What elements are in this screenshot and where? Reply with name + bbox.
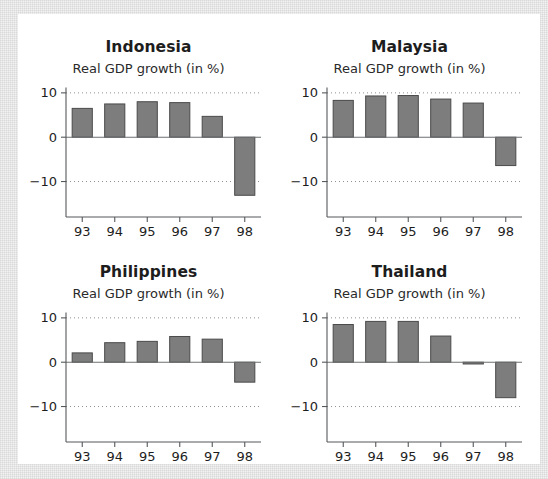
plot-area: 100−10939495969798: [279, 239, 540, 464]
bar-94: [366, 321, 386, 362]
x-tick-label: 95: [139, 449, 156, 464]
x-tick-label: 97: [204, 449, 221, 464]
plot-area: 100−10939495969798: [18, 239, 279, 464]
panel-malaysia: Malaysia Real GDP growth (in %) 100−1093…: [279, 14, 540, 239]
x-tick-label: 93: [74, 449, 91, 464]
bar-96: [431, 99, 451, 137]
y-tick-label: −10: [291, 399, 318, 414]
figure-page: Indonesia Real GDP growth (in %) 100−109…: [0, 0, 548, 479]
y-tick-label: 0: [49, 130, 57, 145]
x-tick-label: 93: [335, 449, 352, 464]
x-tick-label: 94: [106, 449, 123, 464]
bar-95: [398, 96, 418, 138]
bar-95: [137, 102, 157, 137]
x-tick-label: 95: [400, 449, 417, 464]
plot-area: 100−10939495969798: [279, 14, 540, 239]
y-tick-label: 0: [49, 355, 57, 370]
bar-98: [496, 362, 516, 397]
bar-98: [235, 362, 255, 382]
bar-93: [333, 325, 353, 363]
bar-96: [170, 336, 190, 362]
y-tick-label: 10: [40, 85, 57, 100]
y-tick-label: 10: [301, 85, 318, 100]
panel-philippines: Philippines Real GDP growth (in %) 100−1…: [18, 239, 279, 464]
bar-93: [72, 353, 92, 362]
x-tick-label: 94: [367, 449, 384, 464]
bar-93: [333, 100, 353, 137]
x-tick-label: 97: [204, 224, 221, 239]
bar-98: [235, 137, 255, 195]
y-tick-label: −10: [291, 174, 318, 189]
x-tick-label: 98: [236, 449, 253, 464]
bar-96: [431, 336, 451, 362]
x-tick-label: 94: [367, 224, 384, 239]
bar-96: [170, 103, 190, 138]
y-tick-label: 10: [301, 310, 318, 325]
bar-94: [105, 343, 125, 363]
bar-97: [202, 116, 222, 137]
panel-grid: Indonesia Real GDP growth (in %) 100−109…: [18, 14, 540, 464]
bar-97: [202, 339, 222, 362]
x-tick-label: 96: [432, 224, 449, 239]
bar-93: [72, 108, 92, 137]
bar-98: [496, 137, 516, 165]
x-tick-label: 94: [106, 224, 123, 239]
y-tick-label: −10: [30, 174, 57, 189]
bar-97: [463, 103, 483, 137]
panel-indonesia: Indonesia Real GDP growth (in %) 100−109…: [18, 14, 279, 239]
x-tick-label: 98: [497, 224, 514, 239]
bar-95: [398, 321, 418, 362]
x-tick-label: 97: [465, 224, 482, 239]
x-tick-label: 98: [497, 449, 514, 464]
panel-thailand: Thailand Real GDP growth (in %) 100−1093…: [279, 239, 540, 464]
x-tick-label: 96: [432, 449, 449, 464]
x-tick-label: 97: [465, 449, 482, 464]
x-tick-label: 95: [400, 224, 417, 239]
plot-area: 100−10939495969798: [18, 14, 279, 239]
x-tick-label: 93: [74, 224, 91, 239]
bar-94: [105, 104, 125, 137]
y-tick-label: −10: [30, 399, 57, 414]
x-tick-label: 95: [139, 224, 156, 239]
x-tick-label: 96: [171, 224, 188, 239]
bar-95: [137, 341, 157, 362]
figure-canvas: Indonesia Real GDP growth (in %) 100−109…: [18, 14, 540, 464]
x-tick-label: 93: [335, 224, 352, 239]
y-tick-label: 0: [310, 355, 318, 370]
x-tick-label: 98: [236, 224, 253, 239]
y-tick-label: 10: [40, 310, 57, 325]
y-tick-label: 0: [310, 130, 318, 145]
x-tick-label: 96: [171, 449, 188, 464]
bar-94: [366, 96, 386, 137]
